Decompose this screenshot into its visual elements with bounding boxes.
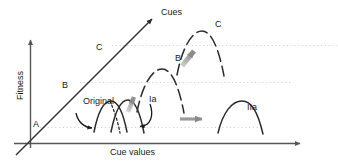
- level-b-label: B: [62, 81, 68, 90]
- x-axis-label: Cue values: [110, 148, 155, 157]
- y-axis-label: Fitness: [16, 71, 25, 100]
- gray-arrow-b-up: [182, 51, 194, 66]
- curve-ia-label: Ia: [149, 95, 157, 104]
- original-pointer-arrow: [76, 113, 92, 128]
- level-c-label: C: [96, 43, 103, 52]
- level-a-label: A: [33, 120, 39, 129]
- curve-b-label: B: [175, 54, 181, 63]
- cues-label: Cues: [161, 8, 182, 17]
- curve-c-label: C: [215, 20, 222, 29]
- original-label: Original: [83, 97, 114, 106]
- cues-diagonal-line: [16, 19, 152, 155]
- curve-iia-label: IIa: [247, 103, 257, 112]
- gray-arrow-ia-up: [128, 97, 134, 112]
- axes: [14, 40, 300, 148]
- diagram-canvas: [0, 0, 338, 167]
- curve-c: [177, 31, 224, 76]
- fitness-cue-values-diagram: Fitness Cue values Cues C B A C B Origin…: [0, 0, 338, 167]
